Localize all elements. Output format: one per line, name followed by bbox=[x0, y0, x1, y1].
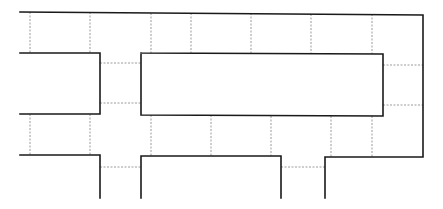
wall-top-outer bbox=[20, 12, 423, 198]
walls bbox=[20, 12, 423, 198]
wall-left-lower-block bbox=[20, 155, 100, 198]
wall-center-block bbox=[141, 53, 383, 116]
floor-plan-diagram bbox=[0, 0, 443, 209]
wall-left-upper-block bbox=[20, 53, 100, 114]
wall-center-lower-block bbox=[141, 156, 281, 198]
cell-dividers bbox=[30, 12, 423, 167]
